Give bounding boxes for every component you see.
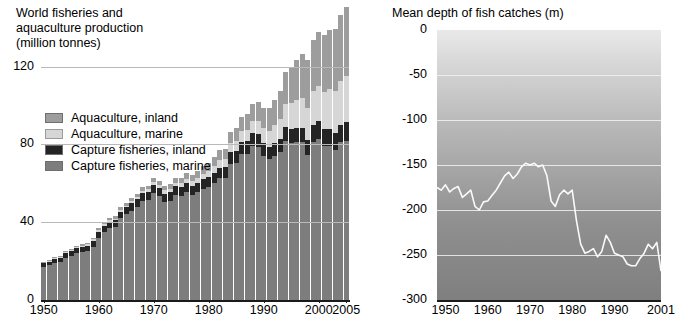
- bar-segment: [316, 139, 321, 300]
- bar-segment: [327, 30, 332, 89]
- bar-segment: [85, 246, 90, 252]
- legend-item-aquaculture_inland: Aquaculture, inland: [45, 111, 211, 126]
- bar: [151, 178, 156, 300]
- fisheries-production-chart-panel: World fisheries and aquaculture producti…: [0, 0, 380, 321]
- bar-segment: [201, 179, 206, 189]
- bar: [283, 72, 288, 300]
- bar-segment: [234, 141, 239, 151]
- bar-segment: [118, 218, 123, 300]
- right-chart-title: Mean depth of fish catches (m): [392, 6, 564, 20]
- y-axis-tick-label: -250: [385, 247, 427, 261]
- bar-segment: [256, 121, 261, 134]
- bar-segment: [58, 257, 63, 258]
- bar-segment: [223, 178, 228, 300]
- bar-segment: [184, 183, 189, 192]
- bar-segment: [146, 189, 151, 192]
- bar-segment: [113, 219, 118, 221]
- bar-segment: [239, 154, 244, 300]
- bar: [206, 163, 211, 300]
- bar-segment: [338, 125, 343, 143]
- bar-segment: [74, 253, 79, 300]
- bar-segment: [118, 212, 123, 219]
- bar: [212, 157, 217, 300]
- bar-segment: [256, 147, 261, 300]
- x-axis-tick-label: 2005: [324, 303, 368, 317]
- bar-segment: [47, 265, 52, 300]
- bar-segment: [267, 147, 272, 159]
- bar: [201, 166, 206, 300]
- bar-segment: [283, 127, 288, 140]
- legend-label: Aquaculture, marine: [71, 127, 183, 141]
- bar-segment: [47, 261, 52, 265]
- bar-segment: [234, 128, 239, 141]
- bar-segment: [151, 185, 156, 193]
- bar-segment: [338, 15, 343, 81]
- bar-segment: [135, 194, 140, 197]
- bar: [256, 102, 261, 300]
- depth-line-series: [437, 30, 661, 300]
- bar-segment: [74, 247, 79, 248]
- bar-segment: [245, 141, 250, 154]
- bar-segment: [173, 186, 178, 195]
- legend-item-aquaculture_marine: Aquaculture, marine: [45, 127, 211, 142]
- bar: [278, 91, 283, 300]
- bar-segment: [316, 121, 321, 138]
- bar-segment: [118, 207, 123, 210]
- bar-segment: [300, 128, 305, 143]
- bar-segment: [157, 188, 162, 196]
- bar-segment: [344, 76, 349, 122]
- bar-segment: [80, 247, 85, 252]
- bar-segment: [96, 230, 101, 232]
- mean-depth-chart-panel: Mean depth of fish catches (m) 0-50-100-…: [380, 0, 677, 321]
- bar-segment: [212, 157, 217, 166]
- bar-segment: [305, 140, 310, 155]
- bar-segment: [322, 35, 327, 91]
- bar-segment: [96, 238, 101, 300]
- bar-segment: [223, 167, 228, 178]
- legend: Aquaculture, inlandAquaculture, marineCa…: [45, 111, 211, 175]
- x-axis-tick-label: 1970: [132, 303, 176, 317]
- bar-segment: [140, 201, 145, 300]
- bar-segment: [283, 104, 288, 127]
- bar-segment: [261, 156, 266, 300]
- gridline: [41, 222, 349, 223]
- y-axis-tick-label: -100: [385, 112, 427, 126]
- bar: [311, 40, 316, 300]
- bar-segment: [69, 250, 74, 251]
- bar-segment: [168, 189, 173, 193]
- bar-segment: [146, 186, 151, 190]
- bar-segment: [58, 262, 63, 300]
- bar: [91, 238, 96, 300]
- bar-segment: [151, 193, 156, 300]
- bar-segment: [289, 67, 294, 103]
- legend-swatch: [45, 161, 63, 171]
- bar-segment: [135, 197, 140, 199]
- bar-segment: [322, 92, 327, 130]
- bar: [250, 104, 255, 300]
- x-axis-tick-label: 1990: [595, 303, 635, 317]
- bar-segment: [74, 248, 79, 253]
- bar: [344, 7, 349, 300]
- bar-segment: [162, 202, 167, 300]
- bar-segment: [85, 251, 90, 300]
- bar-segment: [283, 141, 288, 300]
- bar-segment: [201, 189, 206, 300]
- bar-segment: [305, 155, 310, 300]
- bar-segment: [228, 152, 233, 164]
- depth-polyline: [437, 163, 661, 271]
- bar-segment: [96, 232, 101, 238]
- bar-segment: [52, 257, 57, 258]
- bar-segment: [333, 29, 338, 91]
- bar-segment: [41, 262, 46, 263]
- bar-segment: [217, 178, 222, 300]
- bar: [107, 218, 112, 300]
- bar: [47, 260, 52, 300]
- bar-segment: [124, 207, 129, 214]
- bar-segment: [289, 103, 294, 129]
- bar-segment: [212, 173, 217, 184]
- bar-segment: [261, 108, 266, 128]
- bar-segment: [173, 183, 178, 187]
- bar-segment: [294, 128, 299, 142]
- bar-segment: [80, 252, 85, 300]
- bar-segment: [179, 187, 184, 196]
